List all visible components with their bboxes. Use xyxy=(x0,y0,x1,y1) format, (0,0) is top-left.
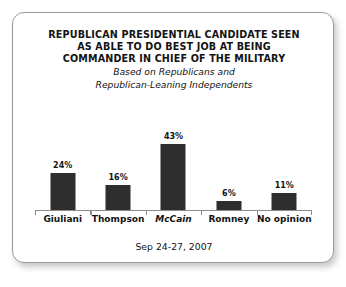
bar-value-label: 43% xyxy=(164,132,183,141)
chart-title-block: REPUBLICAN PRESIDENTIAL CANDIDATE SEEN A… xyxy=(13,29,335,91)
x-axis-label-romney: Romney xyxy=(201,214,256,224)
x-axis-label-thompson: Thompson xyxy=(90,214,145,224)
chart-card: REPUBLICAN PRESIDENTIAL CANDIDATE SEEN A… xyxy=(12,12,334,263)
chart-plot-area: 24%16%43%6%11% xyxy=(35,135,312,211)
bar-value-label: 6% xyxy=(222,189,236,198)
x-axis-label-giuliani: Giuliani xyxy=(35,214,90,224)
bar xyxy=(216,201,241,210)
chart-subtitle-line-1: Based on Republicans and xyxy=(13,66,335,78)
x-axis-label-mccain: McCain xyxy=(146,214,201,224)
chart-title-line-1: REPUBLICAN PRESIDENTIAL CANDIDATE SEEN xyxy=(13,29,335,41)
bar-value-label: 11% xyxy=(275,181,294,190)
bar xyxy=(161,144,186,209)
chart-footer-date: Sep 24-27, 2007 xyxy=(13,241,335,252)
bar xyxy=(272,193,297,210)
bar-group: 24% xyxy=(35,134,90,210)
chart-title-line-3: COMMANDER IN CHIEF OF THE MILITARY xyxy=(13,53,335,65)
bar-group: 43% xyxy=(146,134,201,210)
chart-subtitle-line-2: Republican-Leaning Independents xyxy=(13,79,335,91)
bar xyxy=(50,173,75,209)
x-axis-category-labels: GiulianiThompsonMcCainRomneyNo opinion xyxy=(35,214,312,228)
bar-value-label: 24% xyxy=(53,161,72,170)
bar-group: 11% xyxy=(257,134,312,210)
bar-value-label: 16% xyxy=(109,173,128,182)
bar xyxy=(106,185,131,209)
bar-group: 6% xyxy=(201,134,256,210)
x-axis-label-no-opinion: No opinion xyxy=(257,214,312,224)
x-axis-line xyxy=(35,210,312,211)
bar-group: 16% xyxy=(90,134,145,210)
chart-title-line-2: AS ABLE TO DO BEST JOB AT BEING xyxy=(13,41,335,53)
chart-screenshot: REPUBLICAN PRESIDENTIAL CANDIDATE SEEN A… xyxy=(0,0,346,287)
